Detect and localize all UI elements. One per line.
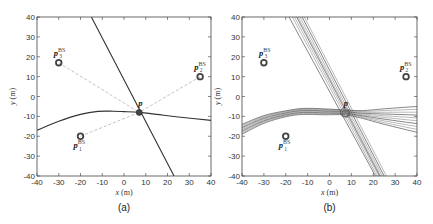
line-bundle-member [295,17,379,176]
plot-area [37,17,211,176]
line-bundle-member [292,17,377,176]
x-tick-label: -30 [53,178,65,187]
y-tick-label: -20 [228,132,240,141]
x-tick-label: 30 [185,178,194,187]
y-tick-label: -20 [23,132,35,141]
y-tick-label: -40 [228,172,240,181]
panel-caption: (b) [323,202,335,213]
x-axis-label: x (m) [114,188,132,197]
dashed-link [59,63,139,113]
line-bundle-member [304,17,386,176]
x-tick-label: 20 [163,178,172,187]
y-tick-label: 40 [231,13,240,22]
x-tick-label: -10 [96,178,108,187]
curve-series [37,111,211,130]
x-tick-label: 10 [141,178,150,187]
y-tick-label: 10 [26,73,35,82]
x-tick-label: 30 [391,178,400,187]
plot-frame [37,17,211,176]
x-tick-label: 40 [207,178,216,187]
x-tick-label: 40 [413,178,422,187]
panel-caption: (a) [118,202,130,213]
bs-label-sub: 3 [59,53,62,59]
x-tick-label: -20 [75,178,87,187]
line-bundle-member [300,17,382,176]
x-tick-label: 0 [122,178,127,187]
dashed-link [81,112,140,136]
y-tick-label: 0 [236,93,241,102]
y-tick-label: 10 [231,73,240,82]
y-axis-label: y (m) [213,88,222,106]
bs-label-sub: 1 [79,146,82,152]
bs-label-sub: 1 [284,146,287,152]
y-tick-label: 20 [26,53,35,62]
y-tick-label: -30 [23,152,35,161]
x-tick-label: -30 [258,178,270,187]
bs-label-sub: 2 [200,67,203,73]
line-bundle-member [302,17,384,176]
y-tick-label: 30 [231,33,240,42]
line-bundle-member [289,17,375,176]
line-bundle-member [298,17,381,176]
axis-ticks: -40-30-20-10010203040-40-30-20-100102030… [228,13,422,187]
y-tick-label: -40 [23,172,35,181]
position-label: p [137,98,142,108]
position-label: p [343,98,348,108]
y-tick-label: -10 [228,112,240,121]
y-tick-label: 20 [231,53,240,62]
line-bundle-member [297,17,380,176]
base-station-marker [283,133,289,139]
y-tick-label: 0 [31,93,36,102]
bs-label-sub: 3 [264,53,267,59]
plot-frame [242,17,417,176]
y-tick-label: -10 [23,112,35,121]
x-tick-label: 0 [327,178,332,187]
figure: -40-30-20-10010203040-40-30-20-100102030… [0,0,433,224]
x-tick-label: 20 [369,178,378,187]
position-marker [136,109,142,115]
x-tick-label: -10 [302,178,314,187]
x-axis-label: x (m) [320,188,338,197]
y-tick-label: 30 [26,33,35,42]
y-tick-label: 40 [26,13,35,22]
base-station-marker [403,74,409,80]
x-tick-label: -20 [280,178,292,187]
plot-area [242,17,417,176]
x-tick-label: 10 [347,178,356,187]
bs-label-sub: 2 [406,67,409,73]
panel-b: -40-30-20-10010203040-40-30-20-100102030… [213,13,422,213]
y-tick-label: -30 [228,152,240,161]
panel-a: -40-30-20-10010203040-40-30-20-100102030… [8,13,216,213]
base-station-marker [261,60,267,66]
dashed-link [139,77,200,113]
y-axis-label: y (m) [8,88,17,106]
line-series [91,17,174,176]
